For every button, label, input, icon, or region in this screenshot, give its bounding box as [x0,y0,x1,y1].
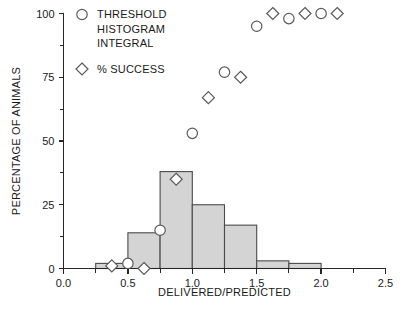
threshold-integral-point [219,67,229,77]
histogram-bar [160,172,192,269]
percentage-of-animals-chart: 02550751000.00.51.01.52.02.5 THRESHOLDHI… [0,0,405,311]
legend-label: HISTOGRAM [97,23,165,35]
chart-container: 02550751000.00.51.01.52.02.5 THRESHOLDHI… [0,0,405,311]
threshold-integral-point [187,128,197,138]
threshold-integral-point [155,225,165,235]
x-axis-tick-label: 0.5 [120,277,135,289]
legend-label: % SUCCESS [97,63,165,75]
x-axis-tick-label: 2.5 [378,277,393,289]
legend-circle-icon [77,9,87,19]
y-axis-title: PERCENTAGE OF ANIMALS [10,67,22,215]
x-axis-title: DELIVERED/PREDICTED [158,286,291,298]
legend-label: THRESHOLD [97,8,167,20]
y-axis-tick-label: 0 [48,263,54,275]
y-axis-tick-label: 100 [36,8,54,20]
histogram-bar [192,205,224,269]
x-axis-tick-label: 0.0 [56,277,71,289]
x-axis-tick-label: 2.0 [313,277,328,289]
threshold-integral-point [284,13,294,23]
histogram-bar [257,261,289,269]
legend-label: INTEGRAL [97,37,154,49]
threshold-integral-point [123,258,133,268]
histogram-bar [289,263,321,268]
threshold-integral-point [316,8,326,18]
y-axis-tick-label: 50 [42,135,54,147]
y-axis-tick-label: 75 [42,71,54,83]
threshold-integral-point [252,21,262,31]
y-axis-tick-label: 25 [42,199,54,211]
histogram-bar [225,225,257,268]
